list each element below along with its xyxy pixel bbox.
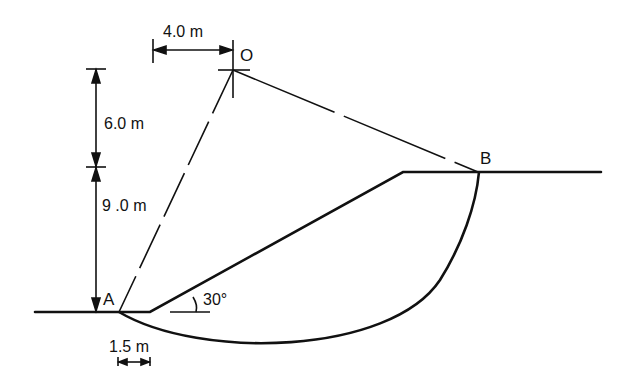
point-b-label: B (480, 149, 491, 168)
label-angle: 30° (203, 291, 227, 308)
label-9m: 9 .0 m (102, 197, 146, 214)
point-a-label: A (103, 290, 115, 309)
dimension-vertical (86, 69, 106, 312)
point-o-label: O (240, 46, 253, 65)
dimension-toe (118, 357, 150, 366)
slope-profile (35, 172, 601, 312)
label-4m: 4.0 m (163, 23, 203, 40)
label-1-5m: 1.5 m (109, 338, 149, 355)
radius-lines (119, 70, 478, 312)
slope-diagram: 4.0 m 6.0 m 9 .0 m 1.5 m 30° O A B (0, 0, 633, 382)
label-6m: 6.0 m (104, 115, 144, 132)
dimension-horizontal (153, 39, 232, 63)
